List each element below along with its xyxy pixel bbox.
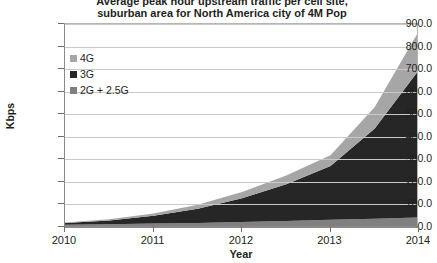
gridline: [65, 137, 417, 138]
chart-title: Average peak hour upstream traffic per c…: [36, 0, 408, 19]
legend-swatch-icon: [70, 55, 77, 62]
x-axis-tick-mark: [64, 226, 65, 232]
legend-label: 2G + 2.5G: [80, 85, 129, 96]
y-axis-tick-label: 800.0: [370, 41, 432, 52]
y-axis-tick-label: 500.0: [370, 108, 432, 119]
x-axis-tick-mark: [418, 226, 419, 232]
y-axis-tick-mark: [58, 113, 64, 114]
gridline: [65, 24, 417, 25]
y-axis-tick-mark: [58, 136, 64, 137]
x-axis-tick-label: 2012: [211, 234, 271, 246]
gridline: [65, 47, 417, 48]
y-axis-tick-label: 900.0: [370, 18, 432, 29]
x-axis-tick-mark: [241, 226, 242, 232]
y-axis-tick-mark: [58, 181, 64, 182]
x-axis-tick-label: 2011: [123, 234, 183, 246]
legend-swatch-icon: [70, 87, 77, 94]
y-axis-label: Kbps: [4, 90, 16, 142]
y-axis-tick-label: 0.0: [370, 221, 432, 232]
y-axis-tick-mark: [58, 158, 64, 159]
x-axis-tick-label: 2014: [388, 234, 437, 246]
legend-item: 3G: [70, 68, 129, 81]
x-axis-label: Year: [64, 248, 418, 260]
y-axis-tick-mark: [58, 23, 64, 24]
gridline: [65, 204, 417, 205]
y-axis-tick-label: 600.0: [370, 86, 432, 97]
x-axis-tick-label: 2013: [300, 234, 360, 246]
chart-title-line-2: suburban area for North America city of …: [36, 8, 408, 20]
y-axis-tick-label: 200.0: [370, 176, 432, 187]
y-axis-tick-mark: [58, 91, 64, 92]
legend-swatch-icon: [70, 71, 77, 78]
legend-item: 4G: [70, 52, 129, 65]
legend-label: 3G: [80, 69, 94, 80]
y-axis-tick-label: 300.0: [370, 153, 432, 164]
y-axis-tick-mark: [58, 46, 64, 47]
y-axis-tick-label: 100.0: [370, 198, 432, 209]
y-axis-tick-mark: [58, 203, 64, 204]
y-axis-tick-mark: [58, 68, 64, 69]
y-axis-tick-label: 700.0: [370, 63, 432, 74]
legend-item: 2G + 2.5G: [70, 84, 129, 97]
gridline: [65, 182, 417, 183]
chart-legend: 4G3G2G + 2.5G: [70, 52, 129, 100]
y-axis-tick-label: 400.0: [370, 131, 432, 142]
legend-label: 4G: [80, 53, 94, 64]
x-axis-tick-label: 2010: [34, 234, 94, 246]
gridline: [65, 159, 417, 160]
x-axis-tick-mark: [153, 226, 154, 232]
gridline: [65, 114, 417, 115]
x-axis-tick-mark: [330, 226, 331, 232]
